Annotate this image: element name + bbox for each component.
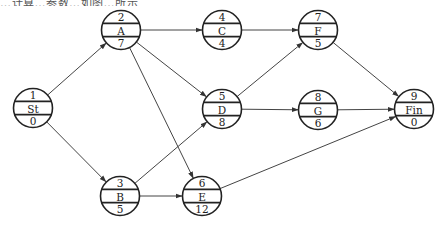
node-b: 3B5	[101, 177, 140, 216]
node-activity-label: B	[116, 191, 124, 203]
node-duration: 5	[315, 37, 322, 49]
node-id-number: 9	[411, 90, 418, 102]
edge-a-to-d	[136, 42, 206, 97]
node-activity-label: F	[314, 25, 321, 37]
cropped-caption-text: …计算…参数…如图…所示	[0, 0, 300, 6]
node-duration: 4	[219, 37, 226, 49]
edge-d-to-f	[237, 43, 302, 97]
node-activity-label: St	[27, 103, 39, 115]
node-activity-label: A	[116, 25, 125, 37]
node-duration: 0	[30, 115, 37, 127]
node-activity-label: C	[218, 25, 226, 37]
node-st: 1St0	[14, 89, 53, 128]
node-activity-label: E	[198, 191, 206, 203]
node-d: 5D8	[203, 90, 242, 129]
edge-a-to-e	[130, 48, 194, 179]
node-id-number: 5	[219, 90, 226, 102]
node-activity-label: G	[314, 105, 322, 117]
node-id-number: 7	[315, 11, 322, 23]
node-fin: 9Fin0	[395, 90, 434, 129]
node-duration: 5	[117, 203, 124, 215]
node-id-number: 8	[315, 91, 322, 103]
network-diagram: …计算…参数…如图…所示 1St02A73B54C45D86E127F58G69…	[0, 0, 441, 227]
node-c: 4C4	[203, 11, 242, 50]
node-duration: 7	[118, 37, 125, 49]
node-g: 8G6	[299, 91, 338, 130]
node-id-number: 3	[117, 177, 124, 189]
node-e: 6E12	[183, 177, 222, 216]
node-a: 2A7	[102, 11, 141, 50]
node-id-number: 2	[118, 11, 125, 23]
edge-st-to-a	[48, 43, 106, 95]
node-duration: 6	[315, 117, 322, 129]
node-id-number: 6	[199, 177, 206, 189]
node-f: 7F5	[299, 11, 338, 50]
edge-g-to-fin	[337, 109, 394, 110]
nodes-layer: 1St02A73B54C45D86E127F58G69Fin0	[14, 11, 434, 216]
network-canvas: 1St02A73B54C45D86E127F58G69Fin0	[0, 0, 441, 227]
node-activity-label: D	[218, 104, 226, 116]
node-duration: 12	[195, 203, 208, 215]
node-id-number: 1	[30, 89, 37, 101]
edge-st-to-b	[47, 122, 106, 182]
edge-d-to-g	[241, 109, 298, 110]
edge-f-to-fin	[333, 42, 398, 96]
node-activity-label: Fin	[405, 104, 423, 116]
node-duration: 0	[411, 116, 418, 128]
node-duration: 8	[219, 116, 226, 128]
node-id-number: 4	[219, 11, 226, 23]
